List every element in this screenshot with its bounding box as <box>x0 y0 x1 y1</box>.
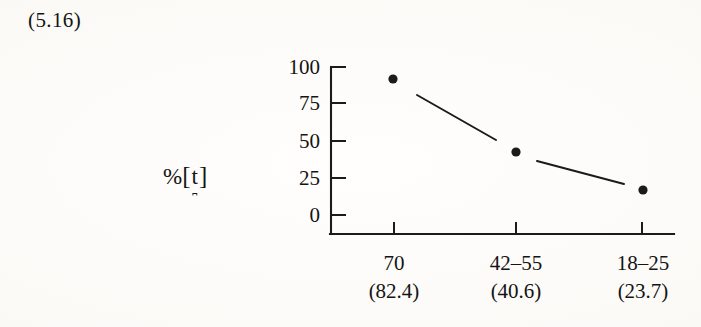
x-tick-label-value: (23.7) <box>578 278 701 306</box>
x-tick-label-value: (40.6) <box>451 278 581 306</box>
x-tick-label-item: 70 (82.4) <box>329 250 459 306</box>
figure-root: (5.16) %[t̪] 100 75 50 25 0 <box>0 0 701 327</box>
x-tick-label-range: 18–25 <box>578 250 701 278</box>
x-tick-label-item: 18–25 (23.7) <box>578 250 701 306</box>
x-tick-label-item: 42–55 (40.6) <box>451 250 581 306</box>
x-tick-label-group: 70 (82.4) 42–55 (40.6) 18–25 (23.7) <box>0 0 701 327</box>
x-tick-label-value: (82.4) <box>329 278 459 306</box>
x-tick-label-range: 70 <box>329 250 459 278</box>
x-tick-label-range: 42–55 <box>451 250 581 278</box>
